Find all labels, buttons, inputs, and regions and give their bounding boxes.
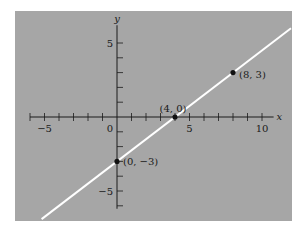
data-point: [114, 159, 119, 164]
data-point: [230, 70, 235, 75]
line-graph: −55105−5 (0, −3)(4, 0)(8, 3) x y 0: [0, 0, 307, 234]
y-tick-label: −5: [98, 186, 113, 197]
point-label: (8, 3): [239, 69, 266, 80]
point-label: (4, 0): [160, 103, 187, 114]
plot-background: [15, 11, 292, 221]
origin-label: 0: [107, 123, 113, 134]
y-tick-label: 5: [107, 38, 113, 49]
x-axis-label: x: [277, 111, 283, 122]
point-label: (0, −3): [123, 156, 158, 167]
x-tick-label: −5: [37, 123, 52, 134]
x-tick-label: 10: [256, 123, 269, 134]
x-tick-label: 5: [186, 123, 192, 134]
data-point: [172, 114, 177, 119]
y-axis-label: y: [113, 13, 120, 24]
